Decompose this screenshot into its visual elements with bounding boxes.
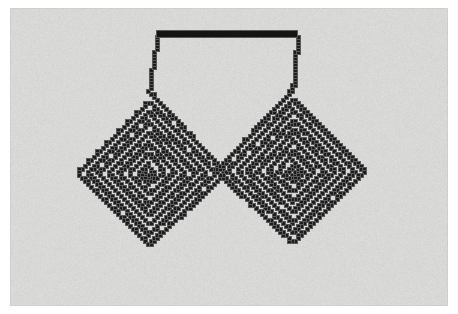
page-root	[0, 0, 458, 314]
spiral-figure-canvas	[0, 0, 458, 314]
